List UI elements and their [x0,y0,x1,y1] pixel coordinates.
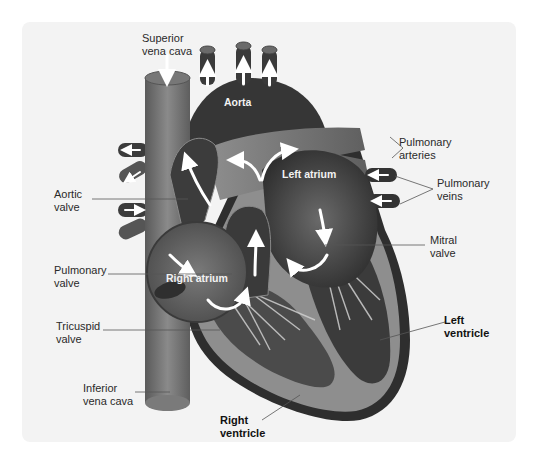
heart-illustration [0,0,540,460]
tricuspid-valve-label: Tricuspid valve [56,320,100,346]
right-ventricle-label: Right ventricle [220,414,265,440]
aorta-label: Aorta [224,96,251,108]
pulmonary-valve-label: Pulmonary valve [54,264,107,290]
mitral-valve-label: Mitral valve [430,234,457,260]
left-atrium-label: Left atrium [282,168,336,180]
superior-vena-cava-label: Superior vena cava [142,32,192,58]
pulmonary-veins-label: Pulmonary veins [437,177,490,203]
right-atrium-label: Right atrium [166,272,228,284]
left-ventricle-label: Left ventricle [444,314,489,340]
pulmonary-arteries-label: Pulmonary arteries [399,136,452,162]
aortic-valve-label: Aortic valve [54,188,82,214]
inferior-vena-cava-label: Inferior vena cava [83,382,133,408]
left-vessels [116,143,149,242]
